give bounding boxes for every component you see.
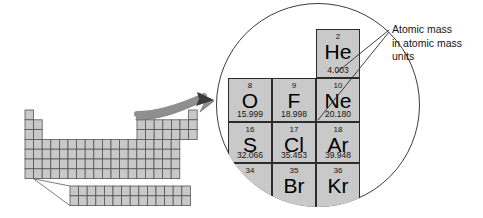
element-symbol: Kr <box>328 175 349 197</box>
element-cell-o[interactable]: 8O15.999 <box>228 78 272 122</box>
element-cell-ne[interactable]: 10Ne20.180 <box>316 78 360 122</box>
element-symbol: He <box>325 41 352 63</box>
atomic-mass: 18.998 <box>273 109 315 119</box>
element-symbol: Br <box>284 175 305 197</box>
element-cell-he[interactable]: 2He4.003 <box>316 29 360 78</box>
callout-line-1: Atomic mass <box>392 23 483 37</box>
callout-line-2: in atomic mass <box>392 37 483 51</box>
element-cell-s[interactable]: 16S32.066 <box>228 122 272 163</box>
callout-line-3: units <box>392 50 483 64</box>
magnified-cells-clip: 2He4.0038O15.9999F18.99810Ne20.18016S32.… <box>216 3 420 207</box>
element-cell-kr[interactable]: 36Kr <box>316 163 360 207</box>
element-cell-br[interactable]: 35Br <box>272 163 316 207</box>
atomic-number: 34 <box>246 166 255 176</box>
element-cell-34[interactable]: 34 <box>228 163 272 207</box>
atomic-mass: 4.003 <box>317 65 359 75</box>
atomic-mass: 39.948 <box>317 150 359 160</box>
element-cell-cl[interactable]: 17Cl35.453 <box>272 122 316 163</box>
atomic-mass: 35.453 <box>273 150 315 160</box>
periodic-table-figure: 2He4.0038O15.9999F18.99810Ne20.18016S32.… <box>0 0 483 218</box>
atomic-mass: 32.066 <box>229 150 271 160</box>
element-cell-f[interactable]: 9F18.998 <box>272 78 316 122</box>
atomic-mass: 15.999 <box>229 109 271 119</box>
element-cell-ar[interactable]: 18Ar39.948 <box>316 122 360 163</box>
atomic-mass-callout: Atomic mass in atomic mass units <box>392 23 483 64</box>
atomic-mass: 20.180 <box>317 109 359 119</box>
fblock-connectors <box>34 179 70 206</box>
